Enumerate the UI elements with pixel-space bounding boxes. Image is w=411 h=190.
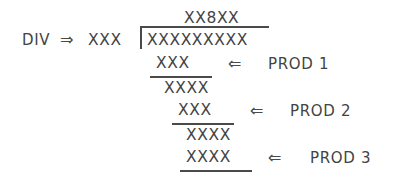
step-1-subtraction-rule xyxy=(150,76,212,78)
step-2-remainder-digits: XXXX xyxy=(186,128,231,144)
division-bracket-overbar-icon xyxy=(140,26,269,28)
quotient-digits: XX8XX xyxy=(184,11,239,27)
long-division-figure: XX8XX DIV ⇒ XXX XXXXXXXXX XXX ⇐ PROD 1 X… xyxy=(0,0,411,190)
step-1-arrow-icon: ⇐ xyxy=(228,56,241,72)
step-2-product-digits: XXX xyxy=(178,103,212,119)
step-1-remainder-digits: XXXX xyxy=(164,81,209,97)
divisor-name-label: DIV xyxy=(22,33,50,48)
division-bracket-vertical-icon xyxy=(140,26,142,49)
step-3-product-digits: XXXX xyxy=(186,150,231,166)
step-1-label: PROD 1 xyxy=(268,57,329,72)
step-2-subtraction-rule xyxy=(172,123,234,125)
divisor-pointer-arrow-icon: ⇒ xyxy=(60,32,73,48)
step-2-label: PROD 2 xyxy=(290,104,351,119)
step-2-arrow-icon: ⇐ xyxy=(250,103,263,119)
divisor-digits: XXX xyxy=(88,33,122,49)
step-1-product-digits: XXX xyxy=(156,56,190,72)
dividend-digits: XXXXXXXXX xyxy=(147,33,248,49)
step-3-arrow-icon: ⇐ xyxy=(268,150,281,166)
step-3-label: PROD 3 xyxy=(310,151,371,166)
step-3-subtraction-rule xyxy=(180,170,252,172)
